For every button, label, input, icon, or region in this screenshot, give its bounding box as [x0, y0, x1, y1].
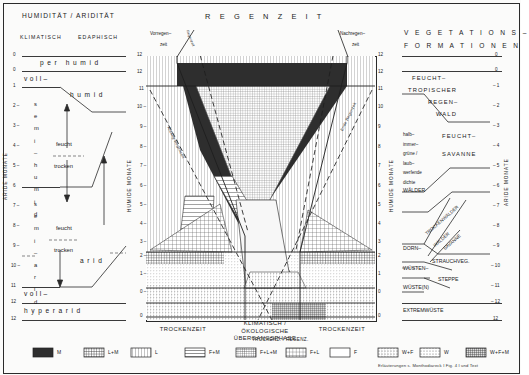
legend-label-fm: F+M — [209, 350, 220, 355]
legend-label-lm: L+M — [108, 350, 119, 355]
formation-strauchveg: STRAUCHVEG. — [432, 259, 469, 264]
formation-wuesten: WÜSTEN– — [403, 266, 428, 271]
formation-wald: WALD — [436, 112, 457, 118]
formation-feucht: FEUCHT– — [412, 76, 446, 82]
legend-label-fl: F+L — [310, 350, 320, 355]
legend-label-f: F — [354, 350, 357, 355]
legend-label-w: W — [444, 350, 449, 355]
legend: TROCKENZ. / REGENZ. — [0, 338, 521, 375]
formation-feucht-savanne-2: SAVANNE — [442, 152, 477, 158]
formation-wueste: WÜSTE(N) — [403, 285, 429, 290]
legend-label-l: L — [155, 350, 158, 355]
formation-tropischer: TROPISCHER — [408, 88, 457, 94]
legend-label-flm: F+L+M — [260, 350, 277, 355]
formation-extremwueste: EXTREMWÜSTE — [403, 308, 443, 313]
formation-dorn: DORN– — [403, 246, 421, 251]
formation-feucht-savanne-1: FEUCHT– — [442, 134, 476, 140]
formation-steppe: STEPPE — [438, 277, 458, 282]
legend-label-wfm: W+F+M — [490, 350, 509, 355]
legend-footnote: Erläuterungen s. Monthodiareck I Fig. 4 … — [378, 364, 478, 368]
formation-halbimmergruene: halb–immer–grüne /laub–werfendedichte — [403, 130, 422, 188]
formation-regen: REGEN– — [428, 100, 458, 106]
legend-label-m: M — [57, 350, 61, 355]
legend-swatches — [0, 338, 521, 375]
legend-label-wf: W+F — [402, 350, 414, 355]
formation-waelder: WÄLDER — [403, 188, 425, 193]
